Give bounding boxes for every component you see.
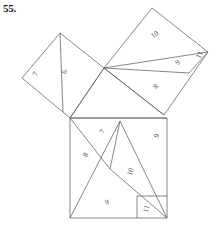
piece-label-left-square-0: 7 [30,70,40,77]
piece-label-bottom-square-2: 9 [151,132,161,140]
central-triangle-edge-left [70,68,104,118]
central-triangle-group [70,68,167,118]
piece-label-left-square-1: 6 [59,69,69,75]
piece-label-bottom-square-5: 11 [141,204,152,214]
piece-label-upper-right-square-0: 10 [149,28,161,40]
dissection-diagram: 7610911878910911 [0,0,212,228]
piece-label-bottom-square-3: 10 [125,167,136,177]
upper-right-square-group [104,8,208,115]
piece-label-bottom-square-4: 9 [104,197,110,207]
upper-right-cut-1 [104,52,208,68]
figure-root: 55. 7610911878910911 [0,0,212,228]
piece-label-upper-right-square-1: 9 [173,58,182,67]
bottom-cut-1 [70,118,110,169]
central-triangle-edge-right [104,68,164,115]
bottom-cut-4 [70,121,120,218]
bottom-cut-2 [110,169,167,218]
piece-label-bottom-square-0: 7 [98,127,108,135]
bottom-cut-3 [110,121,120,169]
piece-label-upper-right-square-3: 8 [151,82,160,91]
piece-label-bottom-square-1: 8 [80,151,90,159]
upper-right-square-outline [104,8,208,115]
upper-right-cut-2 [104,68,189,73]
